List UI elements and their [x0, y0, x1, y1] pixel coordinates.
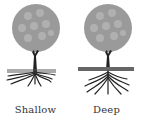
canopy-icon: [84, 4, 132, 52]
deep-tree-illustration: [71, 0, 142, 104]
shallow-tree-illustration: [0, 0, 71, 104]
ground-bar-icon: [78, 67, 134, 71]
trunk-icon: [32, 50, 39, 72]
label-deep: Deep: [71, 104, 142, 115]
ground-lines-icon: [7, 70, 56, 72]
canopy-icon: [12, 4, 60, 52]
tree-shallow-roots: Shallow: [0, 0, 71, 120]
deep-roots-icon: [85, 71, 129, 94]
shallow-roots-icon: [7, 72, 55, 86]
label-shallow: Shallow: [0, 104, 71, 115]
tree-deep-roots: Deep: [71, 0, 142, 120]
